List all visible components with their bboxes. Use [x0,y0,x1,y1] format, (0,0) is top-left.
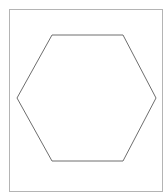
frame-border [10,10,163,192]
diagram-canvas [0,0,167,196]
hexagon-shape [17,35,156,161]
